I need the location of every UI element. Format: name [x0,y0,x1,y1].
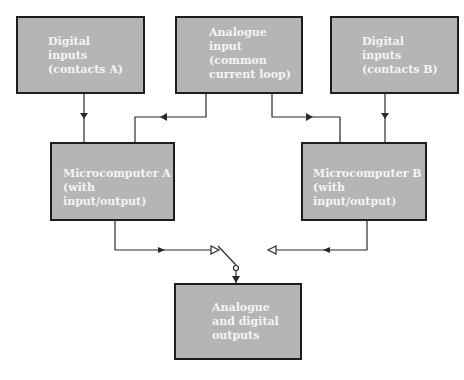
outputs-label: Analogue and digital outputs [212,301,279,343]
wire-micro-b-to-switch [276,220,367,250]
arrow-left-icon [160,113,167,121]
arrow-right-icon [306,113,313,121]
switch-contact-b-icon [268,246,276,254]
analogue-input-label: Analogue input (common current loop) [209,26,291,82]
arrow-down-icon [381,113,389,119]
wire-analogue-to-micro-a [135,93,206,142]
digital-inputs-b-label: Digital inputs (contacts B) [362,35,438,77]
microcomputer-a-box: Microcomputer A (with input/output) [50,142,175,221]
arrow-left-icon [323,247,330,253]
wire-micro-a-to-switch [115,220,211,250]
microcomputer-a-label: Microcomputer A (with input/output) [63,167,173,209]
switch-contact-a-icon [211,246,219,254]
outputs-box: Analogue and digital outputs [174,283,302,360]
microcomputer-b-box: Microcomputer B (with input/output) [301,142,427,221]
arrow-right-icon [158,247,165,253]
microcomputer-b-label: Microcomputer B (with input/output) [313,167,425,209]
digital-inputs-a-label: Digital inputs (contacts A) [48,35,123,77]
digital-inputs-b-box: Digital inputs (contacts B) [330,16,459,94]
analogue-input-box: Analogue input (common current loop) [175,16,303,94]
switch-blade [218,246,236,265]
arrow-down-icon [80,113,88,119]
arrow-down-icon [232,276,240,283]
switch-pivot-icon [234,266,239,271]
digital-inputs-a-box: Digital inputs (contacts A) [16,16,145,94]
